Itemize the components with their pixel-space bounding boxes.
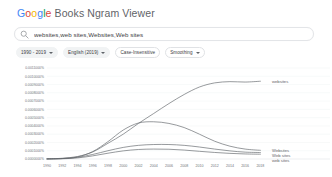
x-axis-tick-label: 2016 <box>241 164 249 168</box>
y-axis-tick-label: 0.0010000% <box>25 75 44 79</box>
chevron-down-icon <box>101 52 105 54</box>
y-axis-tick-label: 0.0001000% <box>25 149 44 153</box>
chart-canvas: 0.0011000%0.0010000%0.0009000%0.0008000%… <box>0 64 332 177</box>
smoothing-chip-label: Smoothing <box>170 50 192 55</box>
y-axis-tick-labels: 0.0011000%0.0010000%0.0009000%0.0008000%… <box>25 66 44 161</box>
x-axis-tick-label: 1990 <box>43 164 51 168</box>
y-axis-tick-label: 0.0008000% <box>25 91 44 95</box>
y-axis-tick-label: 0.0006000% <box>25 108 44 112</box>
y-axis-tick-label: 0.0011000% <box>25 66 44 70</box>
chevron-down-icon <box>49 52 53 54</box>
corpus-chip-label: English (2019) <box>68 50 98 55</box>
chart-series-label: web sites <box>272 158 289 163</box>
chart-series-labels: websitesWebsitesWeb sitesweb sites <box>272 79 290 163</box>
x-axis-tick-label: 1998 <box>104 164 112 168</box>
filter-chips-row: 1990 - 2019 English (2019) Case-Insensit… <box>16 47 205 58</box>
y-axis-tick-label: 0.0009000% <box>25 83 44 87</box>
y-axis-tick-label: 0.0000000% <box>25 157 44 161</box>
search-bar[interactable] <box>14 27 314 41</box>
case-insensitive-chip[interactable]: Case-Insensitive <box>115 47 160 58</box>
x-axis-tick-label: 2004 <box>150 164 158 168</box>
x-axis-tick-label: 2002 <box>134 164 142 168</box>
case-insensitive-chip-label: Case-Insensitive <box>120 50 155 55</box>
y-axis-tick-label: 0.0007000% <box>25 99 44 103</box>
search-icon <box>20 30 29 39</box>
page-title-rest: Books Ngram Viewer <box>52 7 155 19</box>
y-axis-tick-label: 0.0005000% <box>25 116 44 120</box>
y-axis-tick-label: 0.0002000% <box>25 141 44 145</box>
corpus-chip[interactable]: English (2019) <box>63 47 110 58</box>
x-axis-tick-label: 1992 <box>58 164 66 168</box>
ngram-viewer-page: Google Books Ngram Viewer 1990 - 2019 En… <box>0 0 332 177</box>
x-axis-tick-labels: 1990199219941996199820002002200420062008… <box>43 164 264 168</box>
x-axis-tick-label: 2010 <box>195 164 203 168</box>
smoothing-chip[interactable]: Smoothing <box>165 47 204 58</box>
chart-series-label: websites <box>272 79 288 84</box>
page-header: Google Books Ngram Viewer <box>17 6 155 20</box>
x-axis-tick-label: 2006 <box>165 164 173 168</box>
x-axis-tick-label: 1996 <box>89 164 97 168</box>
chevron-down-icon <box>196 52 200 54</box>
search-input[interactable] <box>34 31 299 38</box>
y-axis-tick-label: 0.0003000% <box>25 132 44 136</box>
page-title: Google Books Ngram Viewer <box>17 7 155 19</box>
x-axis-tick-label: 2012 <box>211 164 219 168</box>
ngram-chart[interactable]: 0.0011000%0.0010000%0.0009000%0.0008000%… <box>0 64 332 177</box>
date-range-chip[interactable]: 1990 - 2019 <box>16 47 58 58</box>
y-axis-tick-label: 0.0004000% <box>25 124 44 128</box>
x-axis-tick-label: 2014 <box>226 164 234 168</box>
x-axis-tick-label: 1994 <box>73 164 81 168</box>
x-axis-tick-label: 2018 <box>256 164 264 168</box>
x-axis-tick-label: 2008 <box>180 164 188 168</box>
x-axis-tick-label: 2000 <box>119 164 127 168</box>
date-range-chip-label: 1990 - 2019 <box>21 50 46 55</box>
